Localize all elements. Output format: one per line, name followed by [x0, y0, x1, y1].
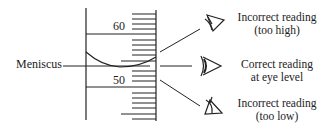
viewpoint-label-high: Incorrect reading (too high): [228, 11, 326, 37]
viewpoint-level-line2: at eye level: [228, 71, 326, 84]
viewpoint-label-level: Correct reading at eye level: [228, 58, 326, 84]
viewpoint-low-line1: Incorrect reading: [228, 97, 326, 110]
sight-line-high: [160, 29, 200, 52]
eye-looking-down-icon: [205, 15, 224, 31]
eye-level-icon: [201, 56, 221, 76]
viewpoint-high-line2: (too high): [228, 24, 326, 37]
sight-line-low: [160, 80, 200, 106]
viewpoint-level-line1: Correct reading: [228, 58, 326, 71]
scale-label-50: 50: [113, 73, 125, 88]
viewpoint-label-low: Incorrect reading (too low): [228, 97, 326, 123]
viewpoint-low-line2: (too low): [228, 110, 326, 123]
eye-looking-up-icon: [205, 97, 222, 114]
meniscus-curve: [86, 52, 156, 67]
scale-label-60: 60: [113, 19, 125, 34]
meniscus-label: Meniscus: [16, 58, 62, 71]
viewpoint-high-line1: Incorrect reading: [228, 11, 326, 24]
